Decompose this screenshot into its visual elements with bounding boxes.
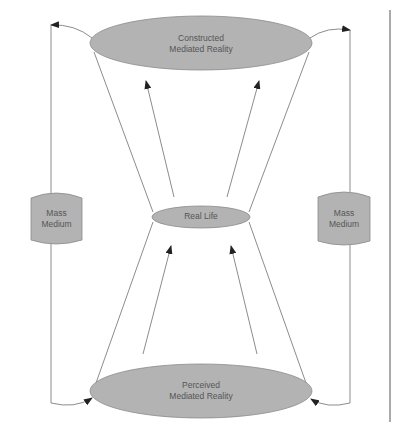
arrow-perceived-to-reallife-left (143, 246, 171, 354)
right-loop-bottom-curve (311, 399, 350, 405)
lower-funnel-left-edge (96, 222, 153, 383)
perceived-mediated-reality-node (90, 364, 312, 418)
upper-funnel-right-edge (249, 52, 309, 212)
mediated-reality-diagram (0, 0, 409, 432)
upper-funnel-left-edge (94, 52, 153, 212)
mass-medium-left-node (31, 193, 82, 244)
lower-funnel-right-edge (249, 222, 306, 383)
right-loop-top-curve (310, 29, 350, 38)
left-loop-top-curve (51, 25, 92, 38)
constructed-mediated-reality-node (90, 16, 312, 70)
arrow-reallife-to-constructed-left (146, 81, 174, 197)
arrow-perceived-to-reallife-right (231, 246, 257, 354)
left-loop-bottom-curve (51, 398, 92, 405)
real-life-node (152, 206, 250, 228)
arrow-reallife-to-constructed-right (227, 81, 259, 197)
mass-medium-right-node (318, 192, 370, 245)
